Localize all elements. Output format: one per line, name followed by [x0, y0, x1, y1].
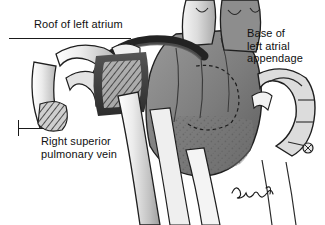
label-roof-of-left-atrium: Roof of left atrium: [34, 18, 123, 31]
label-base-of-left-atrial-appendage: Base of left atrial appendage: [247, 27, 303, 65]
label-right-superior-pulmonary-vein: Right superior pulmonary vein: [41, 135, 117, 160]
hatched-tissue-patch: [38, 101, 67, 131]
leader-line-roof-of-left-atrium: [9, 38, 131, 39]
leader-line-right-superior-pulmonary-vein: [18, 128, 44, 129]
anatomical-figure: Roof of left atrium Base of left atrial …: [0, 0, 325, 225]
leader-tick-right-superior-pulmonary-vein: [18, 120, 19, 136]
